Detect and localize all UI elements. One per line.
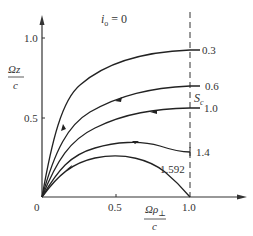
curve-0.6 — [42, 86, 200, 197]
curve-label-0.6: 0.6 — [205, 80, 219, 92]
curve-label-0.3: 0.3 — [202, 44, 216, 56]
curve-label-1.0: 1.0 — [204, 102, 218, 114]
chart: 0.3 0.6 1.0 1.4 1.592 Sc io = 0 1.0 0.5 … — [0, 0, 253, 236]
x-tick-label-0: 0 — [34, 201, 40, 213]
y-axis-arrow-icon — [40, 15, 45, 25]
y-tick-label-0.5: 0.5 — [24, 112, 38, 124]
io-annotation: io = 0 — [101, 12, 127, 28]
flow-arrows — [61, 97, 157, 170]
y-tick-label-1.0: 1.0 — [24, 32, 38, 44]
x-label-denominator: c — [152, 220, 157, 232]
curve-label-1.592: 1.592 — [160, 163, 185, 175]
arrow-icon-0.3 — [61, 124, 66, 131]
sc-label: Sc — [194, 91, 204, 107]
y-axis-label: Ωz c — [8, 63, 24, 91]
x-tick-label-1.0: 1.0 — [182, 201, 196, 213]
x-axis-label: Ωρ⊥ c — [144, 203, 166, 232]
curve-label-1.4: 1.4 — [196, 146, 210, 158]
y-label-denominator: c — [13, 79, 18, 91]
curve-1.0 — [42, 108, 200, 197]
x-label-numerator: Ωρ⊥ — [145, 203, 166, 218]
x-axis-arrow-icon — [237, 195, 247, 200]
y-label-numerator: Ωz — [8, 63, 21, 75]
x-tick-label-0.5: 0.5 — [108, 201, 122, 213]
